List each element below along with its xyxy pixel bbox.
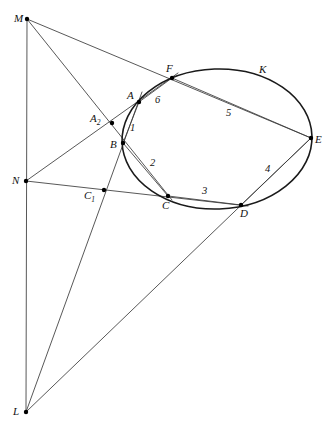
pascal-line-ML [26, 19, 27, 412]
label-text: B [110, 138, 117, 150]
point-c1 [102, 188, 106, 192]
point-c [166, 194, 170, 198]
label-text: C [162, 199, 169, 211]
label-text: E [315, 133, 322, 145]
point-a2 [110, 121, 114, 125]
label-text: N [12, 174, 19, 186]
conic-ellipse-k [120, 66, 315, 213]
label-point-c1: C1 [84, 190, 95, 204]
label-point-l: L [13, 406, 19, 417]
label-side-4: 4 [265, 164, 270, 175]
label-text: A [127, 89, 134, 101]
label-side-5: 5 [226, 108, 231, 119]
label-point-b: B [110, 139, 117, 150]
point-b [121, 141, 125, 145]
segments-group [26, 19, 311, 412]
line-N-C1-C-D [26, 181, 248, 206]
label-point-c: C [162, 200, 169, 211]
label-text: M [14, 12, 23, 24]
label-subscript: 2 [97, 118, 101, 127]
point-l [24, 410, 28, 414]
label-point-a: A [127, 90, 134, 101]
label-subscript: 1 [91, 195, 95, 204]
label-point-n: N [12, 175, 19, 186]
label-point-m: M [14, 13, 23, 24]
point-e [309, 136, 313, 140]
label-text: L [13, 405, 19, 417]
label-conic-k: K [259, 64, 266, 75]
point-m [25, 17, 29, 21]
line-M-A2-B-C [27, 19, 172, 200]
label-side-3: 3 [202, 186, 207, 197]
geometry-figure: MLNABCDEFA2C1123456K [0, 0, 331, 427]
label-text: F [166, 62, 173, 74]
label-text: A [90, 112, 97, 124]
points-group [24, 17, 313, 414]
point-n [24, 179, 28, 183]
label-point-d: D [240, 208, 248, 219]
label-side-6: 6 [155, 95, 160, 106]
point-a [137, 100, 141, 104]
label-point-a2: A2 [90, 113, 100, 127]
label-text: D [240, 207, 248, 219]
point-f [170, 76, 174, 80]
label-point-e: E [315, 134, 322, 145]
chord-5-EF [172, 78, 311, 138]
conic-group [120, 66, 315, 213]
label-point-f: F [166, 63, 173, 74]
label-side-2: 2 [150, 158, 155, 169]
label-side-1: 1 [130, 123, 135, 134]
